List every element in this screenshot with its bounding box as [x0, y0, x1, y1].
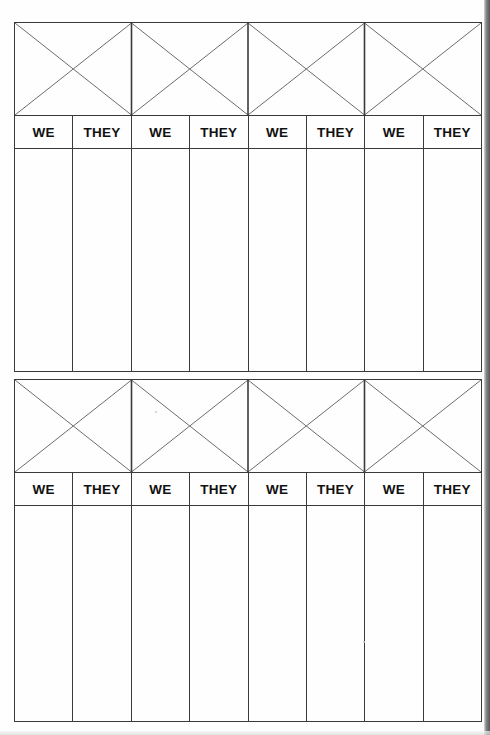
- score-sheet-page: WE THEY WE THEY WE THEY WE THEY: [0, 0, 490, 735]
- tally-column[interactable]: [364, 506, 422, 721]
- header-cell-they: THEY: [423, 116, 481, 148]
- tally-column[interactable]: [72, 506, 130, 721]
- tally-body: [14, 506, 482, 722]
- x-pattern-banner: [14, 379, 482, 472]
- tally-column[interactable]: [131, 506, 189, 721]
- x-pattern-svg: [15, 380, 481, 472]
- tally-column[interactable]: [15, 506, 72, 721]
- tally-column[interactable]: [306, 506, 364, 721]
- x-pattern-svg: [15, 23, 481, 115]
- header-cell-they: THEY: [306, 116, 364, 148]
- score-block: WE THEY WE THEY WE THEY WE THEY: [14, 379, 482, 722]
- header-cell-we: WE: [364, 116, 422, 148]
- tally-column[interactable]: [15, 149, 72, 371]
- tally-column[interactable]: [364, 149, 422, 371]
- header-cell-they: THEY: [189, 116, 247, 148]
- tally-column[interactable]: [306, 149, 364, 371]
- tally-column[interactable]: [248, 149, 306, 371]
- header-cell-we: WE: [15, 116, 72, 148]
- tally-column[interactable]: [131, 149, 189, 371]
- scan-gutter-bottom: [0, 731, 490, 735]
- header-cell-we: WE: [131, 473, 189, 505]
- header-cell-we: WE: [248, 473, 306, 505]
- tally-column[interactable]: [72, 149, 130, 371]
- header-row: WE THEY WE THEY WE THEY WE THEY: [14, 115, 482, 149]
- header-cell-they: THEY: [306, 473, 364, 505]
- tally-column[interactable]: [248, 506, 306, 721]
- header-cell-we: WE: [364, 473, 422, 505]
- header-cell-they: THEY: [72, 473, 130, 505]
- tally-column[interactable]: [189, 506, 247, 721]
- tally-column[interactable]: [423, 149, 481, 371]
- tally-column[interactable]: [189, 149, 247, 371]
- tally-column[interactable]: [423, 506, 481, 721]
- header-cell-we: WE: [131, 116, 189, 148]
- header-cell-we: WE: [15, 473, 72, 505]
- header-cell-they: THEY: [72, 116, 130, 148]
- header-cell-they: THEY: [189, 473, 247, 505]
- scan-gutter-right: [484, 0, 490, 735]
- score-block: WE THEY WE THEY WE THEY WE THEY: [14, 22, 482, 372]
- tally-body: [14, 149, 482, 372]
- header-cell-they: THEY: [423, 473, 481, 505]
- header-cell-we: WE: [248, 116, 306, 148]
- x-pattern-banner: [14, 22, 482, 115]
- header-row: WE THEY WE THEY WE THEY WE THEY: [14, 472, 482, 506]
